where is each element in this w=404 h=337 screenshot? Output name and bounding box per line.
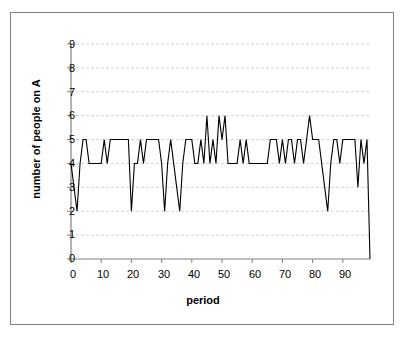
y-tick-label-1: 1 <box>55 228 75 240</box>
x-tick-label-50: 50 <box>212 268 236 280</box>
x-tick-label-10: 10 <box>91 268 115 280</box>
y-tick-label-0: 0 <box>55 252 75 264</box>
y-tick-label-9: 9 <box>55 38 75 50</box>
x-tick-label-70: 70 <box>273 268 297 280</box>
x-tick-label-60: 60 <box>243 268 267 280</box>
y-tick-label-2: 2 <box>55 205 75 217</box>
x-tick-label-80: 80 <box>303 268 327 280</box>
y-tick-label-4: 4 <box>55 157 75 169</box>
chart-axes <box>71 44 370 259</box>
x-tick-label-0: 0 <box>61 268 85 280</box>
chart-figure-frame: number of people on A period 9 8 7 6 5 4… <box>10 12 394 325</box>
y-tick-label-6: 6 <box>55 109 75 121</box>
y-tick-label-7: 7 <box>55 86 75 98</box>
data-series-line <box>71 116 370 259</box>
x-axis-title: period <box>11 294 395 306</box>
y-tick-label-8: 8 <box>55 62 75 74</box>
y-axis-title: number of people on A <box>30 59 42 219</box>
chart-plot-container: number of people on A period 9 8 7 6 5 4… <box>11 13 393 324</box>
x-tick-label-90: 90 <box>333 268 357 280</box>
x-tick-label-40: 40 <box>182 268 206 280</box>
y-tick-label-5: 5 <box>55 133 75 145</box>
x-tick-label-20: 20 <box>121 268 145 280</box>
x-tick-label-30: 30 <box>152 268 176 280</box>
y-tick-label-3: 3 <box>55 181 75 193</box>
